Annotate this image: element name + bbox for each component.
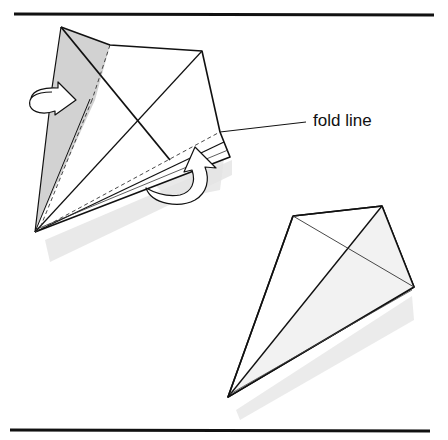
bottom-rule [10, 430, 430, 431]
result-figure [228, 206, 414, 420]
fold-line-leader [220, 122, 306, 132]
fold-line-label: fold line [313, 111, 372, 131]
fold-step-figure [30, 27, 306, 262]
top-rule [14, 14, 434, 15]
origami-diagram [0, 0, 448, 440]
